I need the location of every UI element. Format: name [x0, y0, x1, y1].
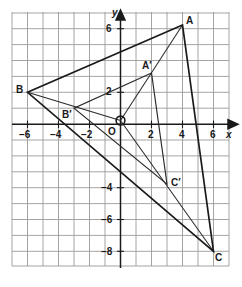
origin-label: O: [108, 127, 116, 137]
y-tick-label-2: 2: [106, 87, 112, 97]
axes: [12, 10, 238, 268]
y-tick-label-minus4: −4: [101, 183, 112, 193]
x-tick-label-2: 2: [148, 130, 154, 140]
y-tick-label-minus6: −6: [101, 215, 112, 225]
y-axis-label: y: [112, 8, 118, 18]
point-label-C-prime: C′: [171, 178, 181, 188]
point-label-C: C: [215, 253, 222, 263]
point-label-A: A: [186, 16, 193, 26]
coordinate-plane-figure: −6 −4 −2 2 4 6 6 2 −4 −6 −8 y x O A B C …: [0, 0, 242, 287]
y-tick-label-6: 6: [106, 24, 112, 34]
x-tick-label-minus6: −6: [19, 130, 30, 140]
point-label-A-prime: A′: [142, 61, 152, 71]
x-tick-label-minus2: −2: [81, 130, 92, 140]
x-tick-label-minus4: −4: [50, 130, 61, 140]
x-tick-label-4: 4: [179, 130, 185, 140]
point-label-B-prime: B′: [62, 110, 72, 120]
x-axis-arrow: [228, 120, 238, 129]
x-tick-label-6: 6: [210, 130, 216, 140]
diagram-canvas: [0, 0, 242, 287]
y-tick-label-minus8: −8: [101, 247, 112, 257]
point-label-B: B: [16, 85, 23, 95]
x-axis-label: x: [226, 130, 232, 140]
